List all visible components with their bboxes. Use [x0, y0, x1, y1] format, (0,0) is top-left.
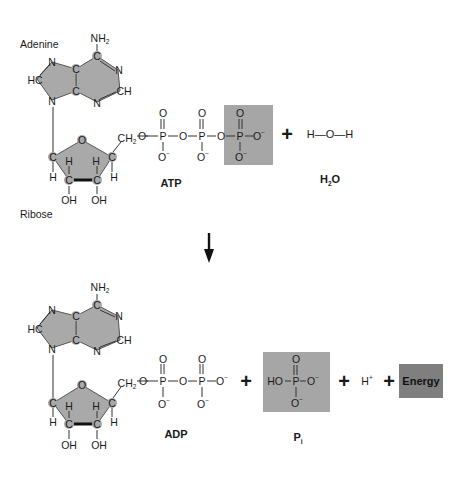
- atom: O−: [216, 374, 228, 388]
- atom: P: [292, 375, 299, 387]
- atom: N: [115, 310, 123, 322]
- atom: O−: [158, 397, 170, 411]
- atom: C: [93, 299, 101, 311]
- ch2-group: CH2: [118, 132, 137, 145]
- atom: O: [179, 130, 187, 142]
- water-structure: H—O—H: [307, 128, 354, 140]
- atom: N: [48, 304, 56, 316]
- atom: OH: [61, 194, 77, 206]
- water-label: H2O: [320, 173, 341, 187]
- atom: C: [108, 151, 116, 163]
- ch2-group: CH2: [118, 377, 137, 390]
- nh2-group: NH2: [91, 281, 110, 294]
- atom: OH: [61, 439, 77, 451]
- atom: C: [65, 174, 73, 186]
- atom: N: [93, 97, 101, 109]
- atom: C: [65, 418, 73, 430]
- atom: O: [292, 353, 300, 365]
- plus-sign: +: [338, 370, 350, 392]
- atom: CH: [116, 85, 131, 97]
- atom: O: [236, 107, 244, 119]
- atom: O−: [197, 397, 209, 411]
- plus-sign: +: [240, 370, 252, 392]
- terminal-phosphate-box: [224, 105, 273, 165]
- atom: O: [217, 130, 225, 142]
- adp-label: ADP: [164, 428, 187, 440]
- atom: C: [93, 174, 101, 186]
- atom: H: [49, 416, 57, 428]
- atom: H: [92, 155, 100, 167]
- atom: C: [72, 63, 80, 75]
- atom: H: [110, 171, 118, 183]
- water-molecule: H—O—H H2O: [307, 128, 354, 187]
- pi-label: Pi: [293, 431, 302, 445]
- atom: P: [159, 130, 166, 142]
- atom: H: [65, 155, 73, 167]
- atom: C: [108, 397, 116, 409]
- atom: O: [139, 375, 147, 387]
- atp-molecule: Adenine NH2 C N CH N C C N HC N: [20, 32, 273, 220]
- energy-box: Energy: [399, 364, 443, 398]
- adenine-label: Adenine: [20, 38, 59, 50]
- plus-sign: +: [383, 370, 395, 392]
- atom: N: [48, 343, 56, 355]
- reaction-arrow-down-icon: [204, 233, 214, 263]
- atom: C: [93, 50, 101, 62]
- atom: O: [179, 375, 187, 387]
- atom: N: [93, 345, 101, 357]
- atom: C: [49, 397, 57, 409]
- atom: O: [138, 130, 146, 142]
- atom: P: [198, 130, 205, 142]
- atom: P: [198, 375, 205, 387]
- atom: N: [48, 56, 56, 68]
- atom: P: [236, 130, 243, 142]
- atp-label: ATP: [160, 177, 181, 189]
- atom: H: [65, 400, 73, 412]
- atom: HO: [267, 375, 283, 387]
- adp-molecule: NH2 C N CH N C C N HC N O C C C: [27, 281, 228, 451]
- atom: C: [49, 151, 57, 163]
- nh2-group: NH2: [91, 32, 110, 45]
- atom: H: [49, 171, 57, 183]
- atom: O: [198, 353, 206, 365]
- atom: O−: [158, 150, 170, 164]
- atom: C: [72, 310, 80, 322]
- atom: O: [78, 134, 86, 146]
- ribose-label: Ribose: [20, 208, 53, 220]
- atom: C: [72, 85, 80, 97]
- atom: OH: [91, 194, 107, 206]
- atom: O−: [197, 150, 209, 164]
- atom: H: [92, 400, 100, 412]
- atom: O: [159, 353, 167, 365]
- atom: O: [159, 107, 167, 119]
- inorganic-phosphate: O HO P O− O− Pi: [263, 352, 330, 445]
- atom: HC: [27, 323, 43, 335]
- atom: C: [72, 334, 80, 346]
- proton: H+: [361, 374, 373, 388]
- atom: P: [159, 375, 166, 387]
- atom: OH: [91, 439, 107, 451]
- atp-hydrolysis-diagram: Adenine NH2 C N CH N C C N HC N: [0, 0, 459, 485]
- atom: O: [198, 107, 206, 119]
- atom: C: [93, 418, 101, 430]
- atom: H: [110, 416, 118, 428]
- atom: CH: [116, 334, 131, 346]
- atom: HC: [27, 74, 43, 86]
- atom: O: [78, 379, 86, 391]
- plus-sign: +: [281, 123, 293, 145]
- energy-label: Energy: [402, 375, 440, 387]
- atom: N: [115, 64, 123, 76]
- atom: N: [48, 95, 56, 107]
